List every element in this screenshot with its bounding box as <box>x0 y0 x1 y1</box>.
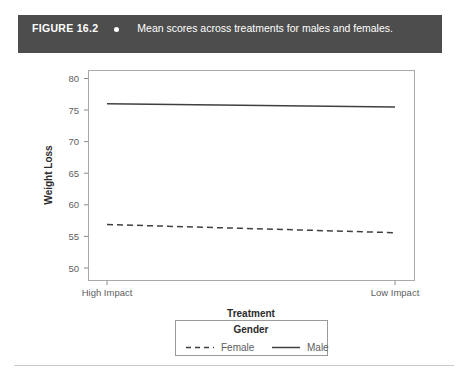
y-tick-label: 80 <box>68 73 79 84</box>
y-tick-label: 60 <box>68 199 79 210</box>
legend-label-male: Male <box>307 342 329 353</box>
y-tick-label: 55 <box>68 231 79 242</box>
y-axis-title: Weight Loss <box>43 145 54 205</box>
y-tick-label: 75 <box>68 105 79 116</box>
y-tick-label: 50 <box>68 263 79 274</box>
legend-label-female: Female <box>221 342 255 353</box>
figure-caption-text: Mean scores across treatments for males … <box>137 22 428 36</box>
figure-number-label: FIGURE 16.2 <box>32 22 98 35</box>
chart-canvas: 80 75 70 65 60 55 50 Weight Loss High Im… <box>0 53 467 365</box>
y-tick-label: 65 <box>68 168 79 179</box>
y-tick-label: 70 <box>68 136 79 147</box>
series-line-male <box>107 104 395 107</box>
line-chart-figure: 80 75 70 65 60 55 50 Weight Loss High Im… <box>0 53 467 365</box>
figure-caption-banner: FIGURE 16.2 Mean scores across treatment… <box>18 15 442 53</box>
y-axis-tick-labels: 80 75 70 65 60 55 50 <box>68 73 79 274</box>
x-axis-ticks <box>107 281 395 286</box>
plot-area-frame <box>89 71 415 281</box>
x-tick-label-low-impact: Low Impact <box>371 287 420 298</box>
y-axis-ticks <box>84 79 89 269</box>
x-tick-label-high-impact: High Impact <box>82 287 133 298</box>
series-line-female <box>107 225 395 233</box>
chart-legend: Gender Female Male <box>176 321 330 356</box>
bullet-dot-icon <box>114 27 119 32</box>
legend-title: Gender <box>233 324 268 335</box>
x-axis-title: Treatment <box>227 308 275 319</box>
page-divider-rule <box>14 365 454 366</box>
